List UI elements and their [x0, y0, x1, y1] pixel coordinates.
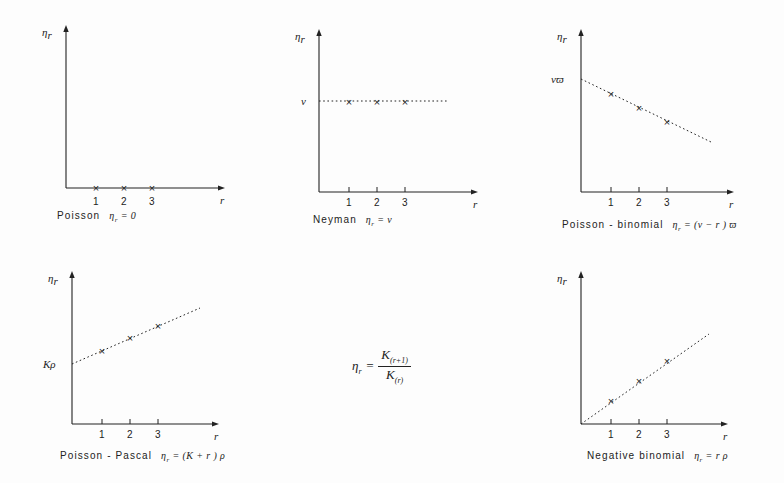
formula-lhs: ηr	[352, 358, 362, 376]
x-axis-arrow-neyman	[471, 189, 478, 194]
tick-label: 1	[608, 429, 614, 440]
y-axis-label-negative-binomial: ηr	[557, 272, 567, 287]
y-axis-label-poisson: ηr	[42, 26, 52, 41]
x-ticks-negative-binomial: 1 2 3	[608, 419, 670, 440]
formula-equals: =	[366, 358, 375, 374]
x-axis-label-poisson-pascal: r	[214, 430, 219, 442]
caption-poisson: Poissonηr = 0	[57, 210, 136, 224]
y-axis-arrow-poisson	[63, 25, 68, 32]
tick-label: 1	[99, 429, 105, 440]
data-marker: ×	[346, 96, 352, 108]
x-ticks-poisson-binomial: 1 2 3	[608, 187, 670, 208]
caption-neyman: Neymanηr = ν	[313, 214, 392, 228]
caption-poisson-binomial: Poisson - binomialηr = (ν − r ) ϖ	[562, 219, 737, 233]
tick-label: 3	[149, 196, 155, 207]
x-axis-arrow-negative-binomial	[721, 421, 728, 426]
y-axis-arrow-poisson-binomial	[578, 29, 583, 36]
distribution-equation: ηr = (ν − r ) ϖ	[673, 219, 737, 230]
data-marker: ×	[99, 345, 105, 357]
x-axis-arrow-poisson	[218, 185, 225, 190]
panel-neyman: ηr r ν × × × 1 2 3	[297, 26, 487, 211]
y-axis-label-poisson-pascal: ηr	[48, 272, 58, 287]
caption-poisson-pascal: Poisson - Pascalηr = (K + r ) ρ	[60, 450, 225, 464]
tick-label: 3	[664, 429, 670, 440]
x-axis-label-poisson: r	[220, 194, 225, 206]
data-marker: ×	[155, 320, 161, 332]
y-axis-arrow-neyman	[316, 29, 321, 36]
x-ticks-neyman: 1 2 3	[346, 187, 408, 208]
data-marker: ×	[127, 332, 133, 344]
tick-label: 2	[374, 197, 380, 208]
data-marker: ×	[402, 96, 408, 108]
data-marker: ×	[608, 395, 614, 407]
fraction-denominator: K(r)	[383, 367, 406, 385]
caption-negative-binomial: Negative binomialηr = r ρ	[587, 450, 728, 464]
data-marker: ×	[664, 355, 670, 367]
tick-label: 3	[664, 197, 670, 208]
distribution-name: Poisson - binomial	[562, 219, 664, 230]
trend-line-poisson-binomial	[581, 79, 711, 142]
markers-poisson-pascal: × × ×	[99, 320, 161, 357]
tick-label: 2	[121, 196, 127, 207]
tick-label: 2	[636, 429, 642, 440]
data-marker: ×	[664, 116, 670, 128]
data-marker: ×	[636, 375, 642, 387]
x-ticks-poisson-pascal: 1 2 3	[99, 419, 161, 440]
y-axis-label-poisson-binomial: ηr	[557, 30, 567, 45]
y-axis-arrow-poisson-pascal	[69, 271, 74, 278]
data-marker: ×	[93, 182, 99, 194]
data-marker: ×	[149, 182, 155, 194]
x-axis-label-negative-binomial: r	[723, 430, 728, 442]
distribution-name: Poisson	[57, 210, 100, 221]
x-axis-label-poisson-binomial: r	[729, 198, 734, 210]
distribution-name: Poisson - Pascal	[60, 450, 152, 461]
data-marker: ×	[636, 102, 642, 114]
distribution-equation: ηr = (K + r ) ρ	[161, 450, 225, 461]
y-axis-arrow-negative-binomial	[578, 271, 583, 278]
markers-poisson-binomial: × × ×	[608, 88, 670, 128]
y-axis-label-neyman: ηr	[295, 30, 305, 45]
figure-canvas: ηr r × × × 1 2 3 Poissonηr = 0 ηr	[0, 0, 784, 483]
distribution-name: Negative binomial	[587, 450, 685, 461]
tick-label: 1	[346, 197, 352, 208]
y-intercept-label-poisson-binomial: νϖ	[551, 73, 564, 85]
distribution-equation: ηr = r ρ	[694, 450, 728, 461]
panel-poisson-binomial: ηr r νϖ × × × 1 2 3	[551, 26, 746, 211]
panel-poisson-pascal: ηr r Kρ × × × 1 2 3	[44, 268, 234, 443]
distribution-equation: ηr = ν	[366, 214, 392, 225]
trend-line-poisson-pascal	[72, 308, 200, 364]
distribution-name: Neyman	[313, 214, 357, 225]
formula-fraction: K(r+1) K(r)	[378, 348, 411, 385]
x-axis-arrow-poisson-binomial	[727, 189, 734, 194]
data-marker: ×	[121, 182, 127, 194]
tick-label: 2	[127, 429, 133, 440]
data-marker: ×	[608, 88, 614, 100]
trend-line-negative-binomial	[581, 334, 709, 424]
data-marker: ×	[374, 96, 380, 108]
tick-label: 3	[402, 197, 408, 208]
fraction-numerator: K(r+1)	[378, 348, 411, 366]
distribution-equation: ηr = 0	[109, 210, 136, 221]
panel-poisson: ηr r × × × 1 2 3	[44, 22, 234, 207]
x-axis-arrow-poisson-pascal	[212, 421, 219, 426]
tick-label: 1	[93, 196, 99, 207]
tick-label: 2	[636, 197, 642, 208]
panel-negative-binomial: ηr r × × × 1 2 3	[551, 268, 746, 443]
y-intercept-label-neyman: ν	[301, 95, 306, 107]
tick-label: 3	[155, 429, 161, 440]
tick-label: 1	[608, 197, 614, 208]
center-formula: ηr = K(r+1) K(r)	[352, 348, 411, 385]
x-ticks-poisson: 1 2 3	[93, 196, 155, 207]
y-intercept-label-poisson-pascal: Kρ	[42, 358, 56, 370]
markers-negative-binomial: × × ×	[608, 355, 670, 407]
x-axis-label-neyman: r	[473, 198, 478, 210]
